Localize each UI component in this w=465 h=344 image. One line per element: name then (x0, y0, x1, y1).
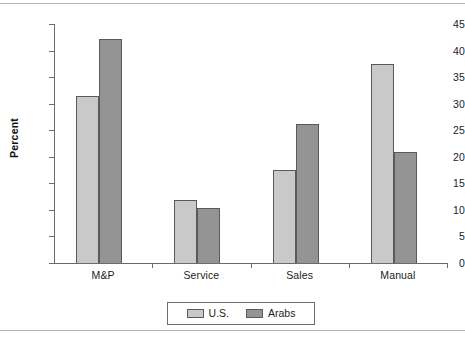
y-tick-label: 45 (421, 19, 465, 29)
x-tick-mark (152, 263, 153, 268)
legend-entry-us[interactable]: U.S. (187, 308, 229, 319)
y-axis-title: Percent (8, 118, 22, 158)
bar-arabs-sales (296, 124, 319, 263)
bar-arabs-service (197, 208, 220, 263)
chart-legend: U.S.Arabs (167, 302, 315, 325)
y-tick-mark (49, 104, 54, 105)
bar-us-mp (76, 96, 99, 263)
y-tick-label: 20 (421, 152, 465, 162)
y-tick-mark (49, 157, 54, 158)
y-tick-label: 35 (421, 72, 465, 82)
x-tick-mark-end (447, 263, 448, 268)
bar-arabs-mp (99, 39, 122, 263)
x-tick-label: Service (152, 269, 250, 281)
x-tick-label: Manual (349, 269, 447, 281)
y-tick-mark (49, 236, 54, 237)
y-tick-mark (49, 210, 54, 211)
bar-us-service (174, 200, 197, 263)
y-tick-label: 15 (421, 178, 465, 188)
y-tick-mark (49, 51, 54, 52)
y-tick-label: 10 (421, 205, 465, 215)
y-tick-label: 0 (421, 258, 465, 268)
y-tick-label: 40 (421, 46, 465, 56)
x-tick-label: M&P (54, 269, 152, 281)
legend-entry-arabs[interactable]: Arabs (246, 308, 295, 319)
y-tick-mark (49, 77, 54, 78)
y-tick-mark (49, 183, 54, 184)
y-tick-label: 5 (421, 231, 465, 241)
page-rule-bottom (0, 330, 465, 331)
y-tick-label: 25 (421, 125, 465, 135)
x-tick-mark (349, 263, 350, 268)
bar-us-sales (273, 170, 296, 263)
legend-swatch-icon (246, 309, 263, 318)
y-tick-label: 30 (421, 99, 465, 109)
y-tick-mark (49, 24, 54, 25)
y-axis-line (54, 24, 55, 264)
legend-label: Arabs (268, 308, 295, 319)
legend-label: U.S. (209, 308, 229, 319)
y-tick-mark (49, 130, 54, 131)
bar-us-manual (371, 64, 394, 263)
legend-swatch-icon (187, 309, 204, 318)
x-tick-label: Sales (251, 269, 349, 281)
bar-arabs-manual (394, 152, 417, 263)
plot-area: Percent 051015202530354045 M&PServiceSal… (0, 0, 465, 300)
y-tick-mark (49, 263, 54, 264)
x-tick-mark (251, 263, 252, 268)
bar-chart-figure: Percent 051015202530354045 M&PServiceSal… (0, 0, 465, 344)
